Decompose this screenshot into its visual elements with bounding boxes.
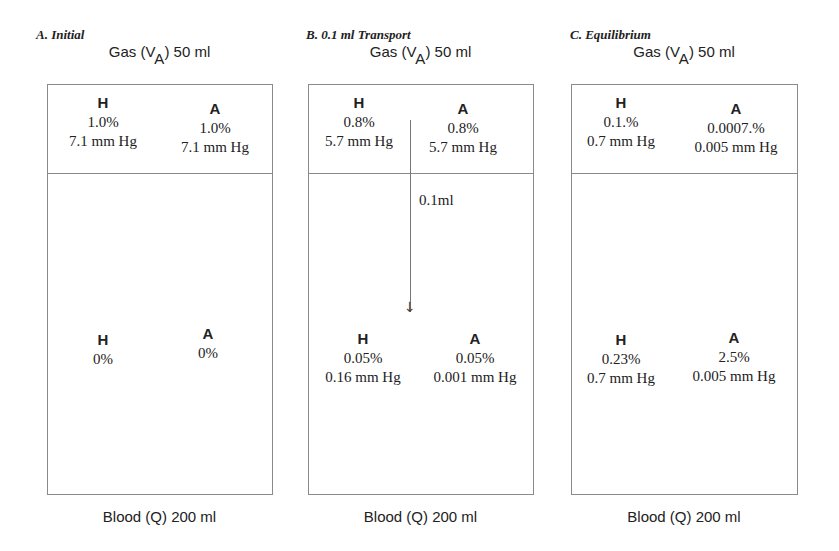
blood-h-cell: H 0% — [48, 330, 158, 369]
gas-symbol-a: A — [674, 99, 798, 119]
gas-a-percent: 0.8% — [447, 120, 478, 136]
blood-a-percent: 0% — [198, 345, 218, 361]
gas-a-pressure: 0.005 mm Hg — [695, 139, 778, 155]
gas-label-subscript: A — [154, 50, 164, 67]
gas-a-percent: 0.0007.% — [707, 120, 765, 136]
gas-compartment-label: Gas (VA) 50 ml — [308, 43, 533, 60]
gas-h-percent: 0.8% — [343, 114, 374, 130]
gas-label-text: Gas (V — [109, 43, 155, 60]
gas-volume-text: ) 50 ml — [425, 43, 471, 60]
gas-volume-text: ) 50 ml — [689, 43, 735, 60]
gas-a-percent: 1.0% — [199, 120, 230, 136]
gas-symbol-a: A — [158, 99, 272, 119]
gas-blood-divider — [309, 173, 533, 174]
gas-h-pressure: 0.7 mm Hg — [587, 133, 655, 149]
panel-title: C. Equilibrium — [570, 27, 651, 43]
gas-a-cell: A 1.0% 7.1 mm Hg — [158, 99, 272, 157]
gas-label-subscript: A — [415, 50, 425, 67]
blood-symbol-a: A — [158, 324, 258, 344]
blood-h-cell: H 0.23% 0.7 mm Hg — [572, 330, 670, 388]
blood-a-pressure: 0.001 mm Hg — [434, 369, 517, 385]
blood-a-percent: 0.05% — [456, 350, 495, 366]
gas-symbol-a: A — [413, 99, 513, 119]
gas-h-cell: H 0.1.% 0.7 mm Hg — [572, 93, 670, 151]
gas-h-cell: H 1.0% 7.1 mm Hg — [48, 93, 158, 151]
gas-h-percent: 1.0% — [87, 114, 118, 130]
compartment-box: H 0.8% 5.7 mm Hg A 0.8% 5.7 mm Hg ↓ 0.1m… — [308, 84, 534, 495]
blood-h-percent: 0.23% — [602, 351, 641, 367]
gas-symbol-h: H — [572, 93, 670, 113]
gas-symbol-h: H — [48, 93, 158, 113]
panel-title: B. 0.1 ml Transport — [306, 27, 411, 43]
blood-h-percent: 0.05% — [344, 350, 383, 366]
gas-blood-divider — [572, 173, 797, 174]
gas-h-cell: H 0.8% 5.7 mm Hg — [309, 93, 409, 151]
gas-symbol-h: H — [309, 93, 409, 113]
blood-h-percent: 0% — [93, 351, 113, 367]
blood-compartment-label: Blood (Q) 200 ml — [571, 508, 797, 525]
panel-title: A. Initial — [36, 27, 84, 43]
gas-h-percent: 0.1.% — [604, 114, 639, 130]
gas-a-cell: A 0.8% 5.7 mm Hg — [413, 99, 513, 157]
gas-h-pressure: 5.7 mm Hg — [325, 133, 393, 149]
transfer-volume-label: 0.1ml — [419, 192, 454, 209]
gas-a-pressure: 5.7 mm Hg — [429, 139, 497, 155]
blood-symbol-h: H — [48, 330, 158, 350]
transport-arrow-line — [410, 120, 411, 312]
gas-blood-divider — [48, 173, 272, 174]
blood-a-cell: A 2.5% 0.005 mm Hg — [672, 328, 796, 386]
blood-symbol-h: H — [572, 330, 670, 350]
blood-symbol-h: H — [309, 329, 417, 349]
gas-label-subscript: A — [679, 50, 689, 67]
blood-symbol-a: A — [417, 329, 533, 349]
compartment-box: H 0.1.% 0.7 mm Hg A 0.0007.% 0.005 mm Hg… — [571, 84, 798, 495]
gas-a-pressure: 7.1 mm Hg — [181, 139, 249, 155]
gas-compartment-label: Gas (VA) 50 ml — [47, 43, 272, 60]
blood-a-pressure: 0.005 mm Hg — [693, 368, 776, 384]
arrow-down-icon: ↓ — [404, 299, 416, 315]
blood-symbol-a: A — [672, 328, 796, 348]
blood-a-cell: A 0% — [158, 324, 258, 363]
blood-h-pressure: 0.16 mm Hg — [325, 369, 400, 385]
gas-label-text: Gas (V — [633, 43, 679, 60]
compartment-box: H 1.0% 7.1 mm Hg A 1.0% 7.1 mm Hg H 0% A… — [47, 84, 273, 495]
gas-label-text: Gas (V — [370, 43, 416, 60]
blood-a-percent: 2.5% — [718, 349, 749, 365]
gas-a-cell: A 0.0007.% 0.005 mm Hg — [674, 99, 798, 157]
gas-compartment-label: Gas (VA) 50 ml — [571, 43, 797, 60]
gas-volume-text: ) 50 ml — [164, 43, 210, 60]
blood-h-pressure: 0.7 mm Hg — [587, 370, 655, 386]
blood-h-cell: H 0.05% 0.16 mm Hg — [309, 329, 417, 387]
gas-h-pressure: 7.1 mm Hg — [69, 133, 137, 149]
blood-compartment-label: Blood (Q) 200 ml — [308, 508, 533, 525]
blood-compartment-label: Blood (Q) 200 ml — [47, 508, 272, 525]
blood-a-cell: A 0.05% 0.001 mm Hg — [417, 329, 533, 387]
